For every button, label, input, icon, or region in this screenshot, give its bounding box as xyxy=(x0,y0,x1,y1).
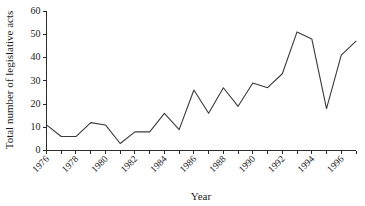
x-tick-label: 1996 xyxy=(325,154,346,175)
x-tick-label: 1990 xyxy=(237,154,258,175)
line-chart: 0102030405060 19761978198019821984198619… xyxy=(0,0,365,206)
y-tick-label: 20 xyxy=(31,98,41,109)
x-tick-label: 1988 xyxy=(207,154,228,175)
x-tick-label: 1994 xyxy=(296,154,317,175)
x-tick-label: 1980 xyxy=(89,154,110,175)
y-tick-label: 30 xyxy=(31,75,41,86)
y-tick-label: 0 xyxy=(36,144,41,155)
y-tick-label: 60 xyxy=(31,5,41,16)
y-axis-title: Total number of legislative acts xyxy=(3,11,15,150)
y-tick-label: 50 xyxy=(31,28,41,39)
x-tick-label: 1984 xyxy=(148,154,169,175)
x-tick-label: 1986 xyxy=(178,154,199,175)
x-tick-label: 1978 xyxy=(60,154,81,175)
x-axis-title: Year xyxy=(191,190,212,202)
y-tick-label: 10 xyxy=(31,121,41,132)
y-tick-label-group: 0102030405060 xyxy=(31,5,41,156)
y-tick-group xyxy=(43,11,47,151)
series-line-legislative-acts xyxy=(47,32,357,144)
x-tick-label: 1982 xyxy=(119,154,140,175)
y-tick-label: 40 xyxy=(31,51,41,62)
x-tick-group xyxy=(47,151,357,155)
chart-figure: 0102030405060 19761978198019821984198619… xyxy=(0,0,365,206)
x-tick-label-group: 1976197819801982198419861988199019921994… xyxy=(30,154,345,175)
x-tick-label: 1976 xyxy=(30,154,51,175)
x-tick-label: 1992 xyxy=(266,154,287,175)
